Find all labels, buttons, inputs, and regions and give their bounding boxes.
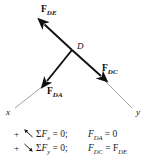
- sum-expression-y: ΣFy = 0;: [36, 143, 68, 155]
- force-label-fde-sub: DE: [47, 9, 57, 17]
- force-vector-fde: [45, 25, 73, 51]
- down-right-arrow-icon: [23, 142, 34, 153]
- force-vector-fdc: [72, 50, 101, 76]
- plus-sign-y: +: [14, 143, 19, 153]
- equation-row-x: + ΣFx = 0; FDA = 0: [12, 128, 148, 143]
- result-rhs-subscript-fdc: DE: [118, 148, 127, 155]
- up-left-arrow-icon: [23, 128, 34, 139]
- force-vector-fda: [47, 50, 72, 81]
- equals-zero-y: = 0;: [53, 143, 68, 153]
- y-axis-line: [103, 79, 132, 108]
- axis-label-y: y: [136, 108, 140, 117]
- plus-sign-x: +: [14, 129, 19, 139]
- equilibrium-equations: + ΣFx = 0; FDA = 0 + ΣFy = 0; FDC = FDE: [12, 128, 148, 164]
- force-label-fda: FDA: [47, 87, 63, 99]
- force-label-fdc-sub: DC: [108, 68, 118, 76]
- axis-subscript-y: y: [47, 148, 50, 155]
- result-rhs-fda: = 0: [105, 129, 117, 139]
- force-label-fde: FDE: [41, 5, 57, 17]
- axis-label-x: x: [6, 108, 10, 117]
- equals-zero-x: = 0;: [53, 129, 68, 139]
- joint-label-d: D: [77, 42, 84, 51]
- sum-expression-x: ΣFx = 0;: [36, 129, 68, 141]
- result-expression-fda: FDA = 0: [88, 129, 117, 141]
- force-label-fda-sub: DA: [53, 91, 63, 99]
- result-expression-fdc: FDC = FDE: [88, 143, 127, 155]
- force-label-fdc: FDC: [102, 64, 118, 76]
- x-axis-line: [15, 84, 46, 108]
- result-subscript-fdc: DC: [94, 148, 103, 155]
- equation-row-y: + ΣFy = 0; FDC = FDE: [12, 142, 148, 157]
- result-subscript-fda: DA: [94, 134, 103, 141]
- axis-subscript-x: x: [47, 134, 50, 141]
- result-rhs-fdc: = F: [105, 143, 118, 153]
